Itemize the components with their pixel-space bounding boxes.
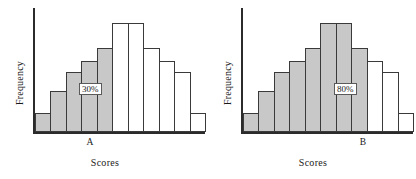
- shaded-percent-label: 30%: [79, 83, 102, 95]
- histogram-panel-a: Frequency 30% A Scores: [0, 0, 208, 179]
- histogram-bar: [190, 113, 206, 132]
- histogram-bar: [336, 23, 352, 132]
- two-histogram-figure: Frequency 30% A Scores Frequency 80% B S…: [0, 0, 416, 179]
- y-axis-title-b: Frequency: [222, 18, 236, 148]
- histogram-bar: [174, 72, 190, 132]
- histogram-bar: [289, 61, 305, 132]
- histogram-bar: [382, 72, 398, 132]
- x-axis-title-b: Scores: [283, 157, 343, 169]
- bar-group-b: 80%: [243, 8, 413, 132]
- histogram-bar: [305, 48, 321, 132]
- histogram-bar: [274, 72, 290, 132]
- histogram-bar: [243, 113, 259, 132]
- histogram-bar: [66, 72, 82, 132]
- histogram-bar: [81, 61, 97, 132]
- bar-group-a: 30%: [35, 8, 205, 132]
- histogram-bar: [320, 23, 336, 132]
- x-axis-line-b: [241, 132, 413, 134]
- y-axis-title-a: Frequency: [14, 18, 28, 148]
- histogram-bar: [159, 61, 175, 132]
- x-tick-label-b: B: [356, 137, 370, 147]
- x-axis-title-a: Scores: [75, 157, 135, 169]
- x-tick-label-a: A: [83, 137, 97, 147]
- x-axis-line-a: [33, 132, 205, 134]
- histogram-panel-b: Frequency 80% B Scores: [208, 0, 416, 179]
- histogram-bar: [35, 113, 51, 132]
- histogram-bar: [50, 91, 66, 132]
- histogram-bar: [398, 113, 414, 132]
- histogram-bar: [367, 61, 383, 132]
- shaded-percent-label: 80%: [334, 83, 357, 95]
- histogram-bar: [258, 91, 274, 132]
- histogram-bar: [112, 23, 128, 132]
- histogram-bar: [143, 48, 159, 132]
- histogram-bar: [128, 23, 144, 132]
